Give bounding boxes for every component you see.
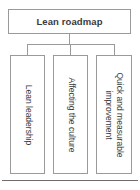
root-node-label: Lean roadmap xyxy=(36,16,102,27)
root-node-lean-roadmap[interactable]: Lean roadmap xyxy=(8,9,131,34)
child-node-affecting-the-culture[interactable]: Affecting the culture xyxy=(53,55,88,174)
child-node-quick-and-measurable-improvement[interactable]: Quick and measurable improvement xyxy=(96,55,132,174)
child-node-2-label: Affecting the culture xyxy=(65,58,76,171)
bottom-divider-rule xyxy=(2,180,138,181)
child-node-3-label: Quick and measurable improvement xyxy=(103,58,125,171)
connector-drop-child-3 xyxy=(114,44,115,55)
child-node-1-label: Lean leadership xyxy=(22,58,33,171)
connector-drop-child-2 xyxy=(70,44,71,55)
lean-roadmap-diagram: Lean roadmap Lean leadership Affecting t… xyxy=(0,0,140,190)
child-node-lean-leadership[interactable]: Lean leadership xyxy=(10,55,45,174)
connector-drop-child-1 xyxy=(27,44,28,55)
